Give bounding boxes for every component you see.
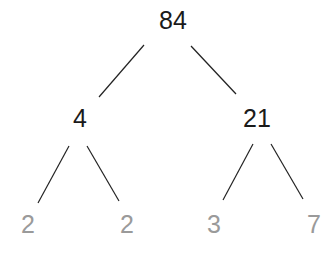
tree-edges xyxy=(0,0,336,253)
edge-84-4 xyxy=(99,45,144,97)
prime-leaf-3: 3 xyxy=(207,212,221,237)
prime-leaf-2b: 2 xyxy=(120,212,134,237)
edge-4-2b xyxy=(87,146,119,201)
edge-21-7 xyxy=(271,144,303,199)
root-node: 84 xyxy=(159,8,187,33)
edge-84-21 xyxy=(191,46,236,94)
prime-leaf-7: 7 xyxy=(307,212,321,237)
factor-node-4: 4 xyxy=(73,106,87,131)
edge-4-2a xyxy=(38,146,69,203)
prime-leaf-2a: 2 xyxy=(21,212,35,237)
factor-node-21: 21 xyxy=(243,106,271,131)
edge-21-3 xyxy=(223,144,253,200)
